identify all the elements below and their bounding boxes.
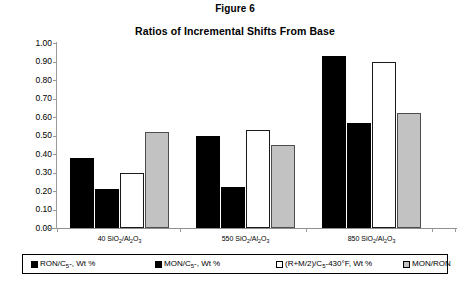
bar-group xyxy=(322,43,421,228)
bar-group xyxy=(70,43,169,228)
figure-caption: Figure 6 xyxy=(0,3,470,14)
y-axis-tick-label: 0.40 xyxy=(18,150,52,159)
y-axis-tick-label: 0.50 xyxy=(18,131,52,140)
legend-item[interactable]: RON/C5-, Wt % xyxy=(31,259,95,269)
bar xyxy=(120,173,144,229)
chart-title: Ratios of Incremental Shifts From Base xyxy=(0,25,470,37)
bar xyxy=(347,123,371,228)
plot-area xyxy=(57,43,455,228)
y-axis-tick-mark xyxy=(53,117,57,118)
y-axis-tick-label: 0.80 xyxy=(18,76,52,85)
legend-swatch-icon xyxy=(276,261,283,268)
y-axis-tick-mark xyxy=(53,191,57,192)
legend-item[interactable]: (R+M/2)/C5-430°F, Wt % xyxy=(276,259,372,269)
legend-swatch-icon xyxy=(403,261,410,268)
bar-group-bars xyxy=(322,43,421,228)
bar xyxy=(372,62,396,229)
y-axis-tick-mark xyxy=(53,173,57,174)
legend-item-label: MON/RON xyxy=(412,259,451,269)
x-axis-group-label: 850 SiO2/Al2O3 xyxy=(312,234,432,244)
x-axis-group-label: 550 SiO2/Al2O3 xyxy=(186,234,306,244)
legend-item-label: (R+M/2)/C5-430°F, Wt % xyxy=(285,259,372,269)
y-axis-labels: 0.000.100.200.300.400.500.600.700.800.90… xyxy=(12,0,52,289)
y-axis-tick-mark xyxy=(53,154,57,155)
x-axis-line xyxy=(45,228,457,229)
bar xyxy=(95,189,119,228)
legend-swatch-icon xyxy=(31,261,38,268)
y-axis-tick-mark xyxy=(53,62,57,63)
bar xyxy=(246,130,270,228)
bar xyxy=(145,132,169,228)
legend-item[interactable]: MON/RON xyxy=(403,259,451,269)
x-axis-tick-mark xyxy=(180,228,181,232)
figure-container: Figure 6 Ratios of Incremental Shifts Fr… xyxy=(0,0,470,289)
y-axis-tick-mark xyxy=(53,43,57,44)
x-axis-tick-mark xyxy=(57,228,58,232)
y-axis-tick-mark xyxy=(53,210,57,211)
bar xyxy=(70,158,94,228)
legend-item[interactable]: MON/C5-, Wt % xyxy=(155,259,220,269)
legend-item-label: RON/C5-, Wt % xyxy=(40,259,95,269)
bar xyxy=(322,56,346,228)
legend-swatch-icon xyxy=(155,261,162,268)
y-axis-tick-label: 0.10 xyxy=(18,205,52,214)
y-axis-tick-mark xyxy=(53,80,57,81)
x-axis-tick-mark xyxy=(455,228,456,232)
y-axis-tick-label: 0.60 xyxy=(18,113,52,122)
bar xyxy=(221,187,245,228)
y-axis-tick-label: 0.30 xyxy=(18,168,52,177)
y-axis-tick-label: 1.00 xyxy=(18,39,52,48)
legend-item-label: MON/C5-, Wt % xyxy=(164,259,220,269)
bar xyxy=(397,113,421,228)
y-axis-tick-label: 0.90 xyxy=(18,57,52,66)
x-axis-tick-mark xyxy=(432,228,433,232)
x-axis-group-label: 40 SiO2/Al2O3 xyxy=(60,234,180,244)
bar-group-bars xyxy=(196,43,295,228)
y-axis-tick-mark xyxy=(53,136,57,137)
bar xyxy=(271,145,295,228)
x-axis-tick-mark xyxy=(306,228,307,232)
y-axis-tick-mark xyxy=(53,99,57,100)
chart-legend: RON/C5-, Wt %MON/C5-, Wt %(R+M/2)/C5-430… xyxy=(22,254,448,274)
bar-group xyxy=(196,43,295,228)
bar xyxy=(196,136,220,229)
y-axis-tick-label: 0.20 xyxy=(18,187,52,196)
y-axis-tick-label: 0.70 xyxy=(18,94,52,103)
bar-group-bars xyxy=(70,43,169,228)
